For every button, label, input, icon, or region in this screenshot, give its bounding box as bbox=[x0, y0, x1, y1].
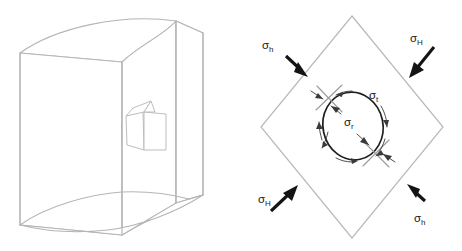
far-field-arrow-top-left bbox=[286, 56, 308, 77]
stress-cross-section: σh σH σH σh σt σr bbox=[258, 16, 443, 238]
far-field-arrow-bottom-right bbox=[407, 184, 425, 201]
detail-left-panel bbox=[126, 111, 144, 150]
label-sigma-h-top-left: σh bbox=[262, 39, 274, 54]
block-right-face bbox=[176, 21, 203, 203]
far-field-arrow-top-right bbox=[409, 47, 434, 78]
label-sigma-h-bottom-right: σh bbox=[414, 212, 426, 227]
3d-rock-block bbox=[20, 19, 203, 235]
far-field-arrow-bottom-left bbox=[271, 185, 298, 211]
label-sigma-H-bottom-left: σH bbox=[258, 193, 271, 208]
detail-right-panel bbox=[144, 112, 166, 150]
block-left-face bbox=[20, 53, 122, 235]
label-sigma-H-top-right: σH bbox=[410, 32, 423, 47]
stress-diagram-svg: σh σH σH σh σt σr bbox=[0, 0, 462, 251]
figure-root: σh σH σH σh σt σr bbox=[0, 0, 462, 251]
